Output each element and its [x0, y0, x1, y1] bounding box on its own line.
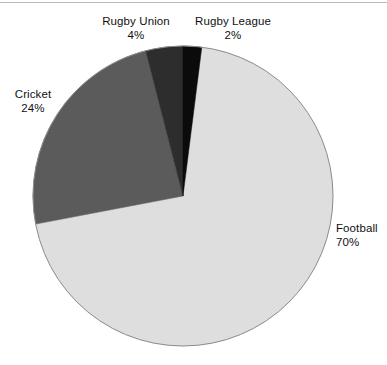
slice-label-football: Football 70% — [336, 222, 387, 249]
slice-label-cricket-name: Cricket — [2, 88, 64, 102]
slice-label-cricket: Cricket 24% — [2, 88, 64, 115]
slice-label-rugby-union-percent: 4% — [96, 29, 176, 43]
slice-label-rugby-union: Rugby Union 4% — [96, 15, 176, 42]
slice-label-rugby-league-name: Rugby League — [189, 15, 277, 29]
slice-label-football-percent: 70% — [336, 236, 387, 250]
slice-label-rugby-league: Rugby League 2% — [189, 15, 277, 42]
slice-label-rugby-union-name: Rugby Union — [96, 15, 176, 29]
pie-chart-svg — [0, 0, 387, 365]
pie-slices-group — [33, 46, 333, 346]
slice-label-football-name: Football — [336, 222, 387, 236]
pie-chart-figure: Rugby Union 4% Rugby League 2% Cricket 2… — [0, 0, 387, 365]
slice-label-cricket-percent: 24% — [2, 102, 64, 116]
slice-label-rugby-league-percent: 2% — [189, 29, 277, 43]
